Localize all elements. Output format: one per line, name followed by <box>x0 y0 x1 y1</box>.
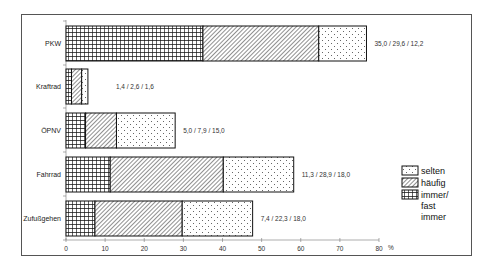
legend-label-immer-line1: immer/ <box>421 190 449 200</box>
value-annotation: 11,3 / 28,9 / 18,0 <box>302 171 351 178</box>
category-label: PKW <box>45 40 61 47</box>
bar-segment <box>66 26 203 61</box>
legend: selten häufig immer/ fast immer <box>402 166 449 222</box>
x-tick-label: 10 <box>102 245 110 252</box>
stacked-bar-chart: 01020304050607080 PKWKraftradÖPNVFahrrad… <box>0 0 492 273</box>
value-annotation: 35,0 / 29,6 / 12,2 <box>374 40 423 47</box>
value-annotation: 7,4 / 22,3 / 18,0 <box>261 215 307 222</box>
category-labels: PKWKraftradÖPNVFahrradZufußgehen <box>23 40 61 223</box>
legend-item-immer: immer/ fast immer <box>402 190 449 222</box>
category-label: Zufußgehen <box>23 215 61 223</box>
bar-segment <box>66 201 95 236</box>
x-tick-label: 0 <box>64 245 68 252</box>
dots-pattern-swatch-icon <box>402 166 418 175</box>
bar-row <box>66 69 88 104</box>
bar-segment <box>182 201 252 236</box>
x-tick-label: 70 <box>336 245 344 252</box>
legend-label-selten: selten <box>421 166 445 176</box>
category-label: ÖPNV <box>41 127 61 134</box>
bar-segment <box>319 26 367 61</box>
category-label: Kraftrad <box>36 83 61 90</box>
bar-segment <box>66 69 71 104</box>
legend-label-immer-line3: immer <box>421 212 446 222</box>
bar-segment <box>71 69 81 104</box>
legend-label-haeufig: häufig <box>421 178 446 188</box>
value-annotation: 5,0 / 7,9 / 15,0 <box>183 127 225 134</box>
legend-label-immer-line2: fast <box>421 201 436 211</box>
x-tick-label: 40 <box>219 245 227 252</box>
bar-segment <box>110 157 223 192</box>
x-tick-label: 60 <box>297 245 305 252</box>
grid-pattern-swatch-icon <box>402 190 418 199</box>
hatch-pattern-swatch-icon <box>402 178 418 187</box>
bar-row <box>66 201 253 236</box>
x-tick-label: 30 <box>180 245 188 252</box>
bar-segment <box>203 26 319 61</box>
bar-segment <box>66 157 110 192</box>
x-axis-unit-label: % <box>388 244 394 251</box>
x-tick-label: 80 <box>375 245 383 252</box>
legend-item-selten: selten <box>402 166 445 176</box>
bar-segment <box>95 201 182 236</box>
x-tick-label: 20 <box>141 245 149 252</box>
bar-segment <box>223 157 293 192</box>
bar-row <box>66 157 294 192</box>
bar-segment <box>86 113 117 148</box>
bar-row <box>66 113 175 148</box>
category-label: Fahrrad <box>36 171 61 178</box>
x-tick-label: 50 <box>258 245 266 252</box>
bar-segment <box>66 113 86 148</box>
bar-segment <box>82 69 88 104</box>
legend-item-haeufig: häufig <box>402 178 446 188</box>
bar-row <box>66 26 366 61</box>
value-annotation: 1,4 / 2,6 / 1,6 <box>116 83 154 90</box>
bar-segment <box>116 113 175 148</box>
